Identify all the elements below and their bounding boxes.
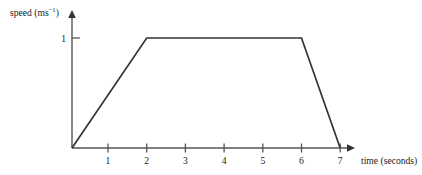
- x-tick-label-1: 1: [106, 155, 111, 166]
- y-axis-arrow-icon: [68, 10, 76, 18]
- chart-canvas: 1 1 2 3 4 5 6 7 speed (ms−1) time (secon…: [0, 0, 422, 175]
- x-tick-label-6: 6: [299, 155, 304, 166]
- y-axis-label-main: speed (ms: [10, 7, 49, 19]
- x-tick-label-4: 4: [222, 155, 227, 166]
- y-axis-label-superscript: −1: [49, 6, 56, 13]
- x-tick-label-7: 7: [338, 155, 343, 166]
- x-tick-label-3: 3: [183, 155, 188, 166]
- speed-time-line: [72, 38, 340, 148]
- x-tick-label-2: 2: [144, 155, 149, 166]
- y-tick-label-1: 1: [61, 33, 66, 44]
- x-tick-label-5: 5: [260, 155, 265, 166]
- x-axis-arrow-icon: [347, 144, 355, 152]
- y-axis-label-suffix: ): [56, 7, 59, 19]
- x-axis-label: time (seconds): [361, 155, 417, 167]
- y-axis-label: speed (ms−1): [10, 6, 59, 19]
- speed-time-chart: 1 1 2 3 4 5 6 7 speed (ms−1) time (secon…: [0, 0, 422, 175]
